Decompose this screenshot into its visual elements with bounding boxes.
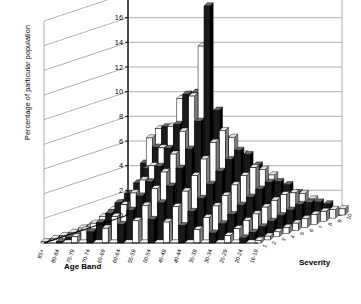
bars-layer <box>41 3 348 243</box>
z-tick-label: 6 <box>308 228 315 233</box>
y-tick-label: 12 <box>115 63 123 72</box>
y-axis-title: Percentage of particular population <box>23 0 32 168</box>
x-tick-label: 60-64 <box>111 248 121 263</box>
z-axis-title: Severity <box>299 258 330 267</box>
z-tick-label: 3 <box>280 237 287 242</box>
y-tick-label: 2 <box>119 186 123 195</box>
y-tick-label: 6 <box>119 137 123 146</box>
y-tick-label: 4 <box>119 161 123 170</box>
x-tick-label: 50-54 <box>142 248 152 263</box>
x-tick-label: 35-39 <box>188 248 198 263</box>
x-tick-label: 40-44 <box>172 248 182 263</box>
x-tick-label: 30-34 <box>203 248 213 263</box>
y-tick-labels: 024681012141618 <box>115 0 128 220</box>
z-tick-label: 4 <box>289 234 296 239</box>
z-tick-label: 8 <box>327 222 334 227</box>
chart-container: 024681012141618 85+80-8475-7970-7465-696… <box>0 0 361 304</box>
z-tick-label: 1 <box>261 244 268 249</box>
x-tick-label: 25-29 <box>218 248 228 263</box>
y-tick-label: 8 <box>119 112 123 121</box>
z-tick-label: 2 <box>271 240 278 245</box>
x-tick-label: 45-49 <box>157 248 167 263</box>
z-tick-label: 5 <box>299 231 306 236</box>
z-tick-label: 10 <box>345 213 353 221</box>
x-tick-label: 85+ <box>36 248 45 259</box>
y-tick-label: 0 <box>119 211 123 220</box>
z-tick-label: 9 <box>336 219 343 224</box>
x-tick-label: 20-24 <box>234 248 244 263</box>
x-axis-title: Age Band <box>64 262 101 271</box>
y-tick-label: 10 <box>115 87 123 96</box>
y-tick-label: 14 <box>115 38 123 47</box>
z-tick-label: 7 <box>317 225 324 230</box>
x-tick-label: 16-19 <box>249 248 259 263</box>
x-tick-label: 55-59 <box>127 248 137 263</box>
y-tick-label: 16 <box>115 13 123 22</box>
x-tick-label: 80-84 <box>50 248 60 263</box>
